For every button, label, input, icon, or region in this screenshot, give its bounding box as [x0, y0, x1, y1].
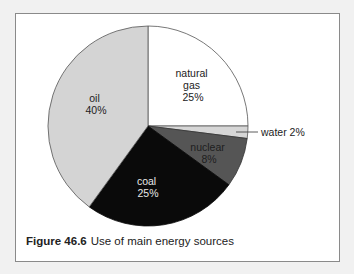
figure-caption-text: Use of main energy sources	[91, 235, 234, 247]
label-coal: coal 25%	[137, 175, 159, 199]
figure-caption: Figure 46.6Use of main energy sources	[26, 235, 234, 247]
label-water: water 2%	[260, 126, 305, 138]
figure-number: Figure 46.6	[26, 235, 87, 247]
pie-chart: natural gas 25% oil 40% water 2% nuclear…	[0, 0, 354, 274]
